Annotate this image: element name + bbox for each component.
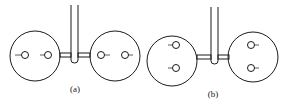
hole-b-left-2 [173, 65, 180, 72]
hole-a-left-2 [45, 52, 52, 59]
hole-b-right-1 [248, 42, 255, 49]
connector-left-a [60, 53, 71, 57]
panel-b: (b) [147, 7, 278, 99]
left-disc-a [10, 31, 60, 81]
panel-a: (a) [10, 5, 140, 94]
hole-a-left-1 [22, 52, 29, 59]
panel-label-b: (b) [208, 89, 219, 99]
hole-a-right-1 [98, 52, 105, 59]
u-tube-b [211, 7, 218, 64]
right-disc-b [228, 32, 278, 82]
u-tube-a [71, 5, 78, 63]
hole-b-left-1 [173, 42, 180, 49]
connector-right-b [218, 55, 229, 59]
connector-right-a [78, 53, 90, 57]
hole-a-right-2 [122, 52, 129, 59]
left-disc-b [147, 36, 197, 86]
connector-left-b [197, 55, 211, 59]
hole-b-right-2 [248, 65, 255, 72]
panel-label-a: (a) [70, 84, 80, 94]
diagram-canvas: (a) (b) [0, 0, 281, 105]
